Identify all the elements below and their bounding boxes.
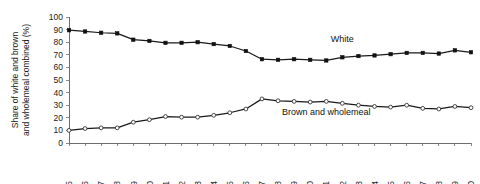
data-point-marker (67, 129, 71, 133)
data-point-marker (421, 106, 425, 110)
x-tick-label: 1977 (96, 181, 106, 184)
y-axis-title-line: and wholemeal combined (%) (21, 24, 31, 136)
x-tick-label: 2000 (466, 181, 476, 184)
data-point-marker (99, 126, 103, 130)
x-tick-label: 1996 (402, 181, 412, 184)
x-tick-label: 1983 (193, 181, 203, 184)
data-point-marker (389, 52, 392, 55)
data-point-marker (164, 41, 167, 44)
y-axis-title: Share of white and brownand wholemeal co… (10, 24, 31, 136)
y-tick-label: 50 (54, 75, 64, 85)
data-point-marker (453, 49, 456, 52)
data-series (67, 29, 473, 133)
data-point-marker (469, 106, 473, 110)
x-tick-label: 1995 (386, 181, 396, 184)
data-point-marker (292, 58, 295, 61)
x-axis-ticks: 1975197619771978197919801981198219831984… (64, 143, 476, 184)
y-tick-label: 0 (58, 138, 63, 148)
x-tick-label: 1986 (241, 181, 251, 184)
data-point-marker (324, 100, 328, 104)
y-tick-label: 40 (54, 88, 64, 98)
data-point-marker (437, 52, 440, 55)
data-point-marker (196, 115, 200, 119)
data-point-marker (67, 29, 70, 32)
data-point-marker (212, 42, 215, 45)
y-tick-label: 30 (54, 100, 64, 110)
x-tick-label: 1978 (112, 181, 122, 184)
x-tick-label: 1998 (434, 181, 444, 184)
data-point-marker (115, 126, 119, 130)
data-point-marker (421, 51, 424, 54)
data-point-marker (309, 58, 312, 61)
data-point-marker (131, 120, 135, 124)
x-tick-label: 1982 (177, 181, 187, 184)
data-point-marker (325, 59, 328, 62)
series-annotation-label: White (331, 34, 354, 44)
data-point-marker (148, 39, 151, 42)
series-line-brown-and-wholemeal (69, 99, 471, 130)
data-point-marker (196, 41, 199, 44)
y-tick-label: 90 (54, 25, 64, 35)
data-point-marker (180, 41, 183, 44)
x-tick-label: 1999 (450, 181, 460, 184)
x-tick-label: 1984 (209, 181, 219, 184)
data-point-marker (389, 105, 393, 109)
data-point-marker (341, 56, 344, 59)
x-tick-label: 1989 (289, 181, 299, 184)
data-point-marker (453, 105, 457, 109)
data-point-marker (373, 105, 377, 109)
data-point-marker (83, 30, 86, 33)
chart-figure: Share of white and brownand wholemeal co… (0, 0, 480, 184)
series-annotation-label: Brown and wholemeal (282, 107, 371, 117)
x-tick-label: 1991 (321, 181, 331, 184)
data-point-marker (437, 107, 441, 111)
x-tick-label: 1981 (161, 181, 171, 184)
series-line-white (69, 30, 471, 60)
y-tick-label: 100 (49, 12, 63, 22)
data-point-marker (373, 54, 376, 57)
y-axis-title-line: Share of white and brown (10, 32, 20, 129)
data-point-marker (83, 127, 87, 131)
x-tick-label: 1975 (64, 181, 74, 184)
x-tick-label: 1997 (418, 181, 428, 184)
x-tick-label: 1980 (145, 181, 155, 184)
x-tick-label: 1979 (129, 181, 139, 184)
y-tick-label: 10 (54, 125, 64, 135)
y-tick-label: 20 (54, 113, 64, 123)
data-point-marker (132, 38, 135, 41)
data-point-marker (405, 51, 408, 54)
data-point-marker (276, 58, 279, 61)
data-point-marker (116, 32, 119, 35)
x-tick-label: 1992 (338, 181, 348, 184)
line-chart: Share of white and brownand wholemeal co… (0, 0, 480, 184)
y-tick-label: 60 (54, 62, 64, 72)
y-tick-label: 70 (54, 50, 64, 60)
x-tick-label: 1985 (225, 181, 235, 184)
data-point-marker (276, 99, 280, 103)
data-point-marker (244, 107, 248, 111)
x-tick-label: 1988 (273, 181, 283, 184)
data-point-marker (244, 49, 247, 52)
data-point-marker (99, 31, 102, 34)
x-tick-label: 1990 (305, 181, 315, 184)
data-point-marker (228, 111, 232, 115)
y-axis-ticks: 0102030405060708090100 (49, 12, 69, 148)
data-point-marker (260, 97, 264, 101)
data-point-marker (357, 54, 360, 57)
x-tick-label: 1993 (354, 181, 364, 184)
data-point-marker (340, 101, 344, 105)
x-tick-label: 1976 (80, 181, 90, 184)
x-tick-label: 1994 (370, 181, 380, 184)
data-point-marker (212, 113, 216, 117)
data-point-marker (308, 100, 312, 104)
x-tick-label: 1987 (257, 181, 267, 184)
data-point-marker (469, 51, 472, 54)
y-tick-label: 80 (54, 37, 64, 47)
data-point-marker (228, 44, 231, 47)
data-point-marker (292, 100, 296, 104)
data-point-marker (148, 118, 152, 122)
data-point-marker (260, 58, 263, 61)
data-point-marker (405, 103, 409, 107)
data-point-marker (164, 115, 168, 119)
data-point-marker (180, 115, 184, 119)
